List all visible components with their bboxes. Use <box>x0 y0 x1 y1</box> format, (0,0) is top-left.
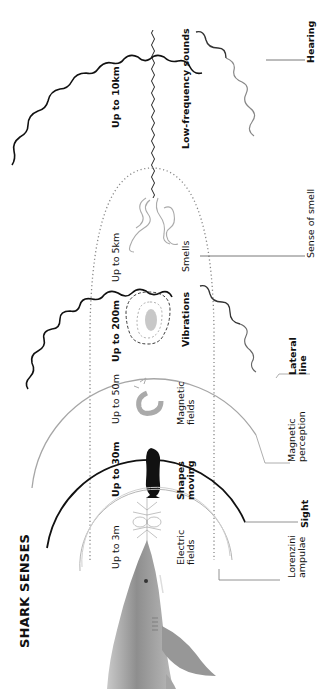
electric-leader-line <box>219 569 280 580</box>
magnetic-range-label: Up to 50m <box>111 374 121 424</box>
sight-organ-label: Sight <box>300 500 310 528</box>
smell-stimulus-label: Smells <box>181 241 191 272</box>
diagram-title: SHARK SENSES <box>18 534 32 648</box>
sight-leader-line <box>244 522 298 523</box>
electric-organ-label: Lorenzini ampulae <box>287 535 307 578</box>
lateral-organ-line2: line <box>297 355 308 375</box>
fish-silhouette-icon <box>146 448 160 498</box>
smell-organ-label: Sense of smell <box>306 189 316 258</box>
hearing-stimulus-label: Low-frequency sounds <box>181 28 191 149</box>
smell-wisps-icon <box>130 198 179 252</box>
magnetic-organ-label: Magnetic perception <box>287 411 307 462</box>
sight-range-label: Up to 30m <box>111 442 121 497</box>
magnet-icon <box>134 378 161 413</box>
lateral-range-label: Up to 200m <box>111 300 121 362</box>
hearing-organ-label: Hearing <box>306 21 316 63</box>
shark-illustration <box>107 540 216 689</box>
smell-range-label: Up to 5km <box>111 233 121 282</box>
smell-range-outline <box>90 168 214 560</box>
hearing-wave-arc <box>12 32 255 165</box>
lateral-line-wave-arc <box>26 286 256 389</box>
electric-stimulus-label: Electric fields <box>176 530 196 565</box>
electric-range-label: Up to 3m <box>111 525 121 569</box>
sight-stimulus-label: Shapes moving <box>176 461 196 500</box>
sound-wave-icon <box>152 30 155 198</box>
vibrations-stimulus-label: Vibrations <box>181 292 191 347</box>
magnetic-stimulus-label: Magnetic fields <box>176 381 196 425</box>
hearing-range-label: Up to 10km <box>111 66 121 128</box>
shark-senses-diagram <box>0 0 322 689</box>
magnetic-leader-line <box>256 435 290 463</box>
lateral-organ-label: Lateral line <box>288 337 308 375</box>
sight-range-arc <box>47 460 245 548</box>
vibration-ripples-icon <box>126 292 170 344</box>
